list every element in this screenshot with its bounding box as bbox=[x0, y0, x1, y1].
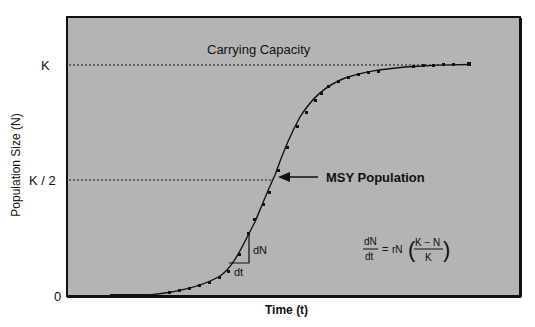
eq-lhs-den: dt bbox=[365, 251, 374, 262]
eq-frac-num: K − N bbox=[415, 237, 440, 248]
y-tick-half-K: K / 2 bbox=[29, 173, 56, 188]
eq-equals: = bbox=[382, 243, 388, 255]
y-tick-zero: 0 bbox=[54, 289, 61, 304]
dN-label: dN bbox=[253, 244, 267, 256]
eq-rN: rN bbox=[392, 244, 403, 255]
x-axis-title: Time (t) bbox=[265, 303, 308, 317]
y-axis-title: Population Size (N) bbox=[9, 113, 23, 216]
logistic-growth-chart: dN dt MSY Population Carrying Capacity K… bbox=[0, 0, 535, 327]
eq-frac-den: K bbox=[425, 252, 432, 263]
eq-lhs-num: dN bbox=[364, 236, 377, 247]
dt-label: dt bbox=[234, 266, 243, 278]
carrying-capacity-label: Carrying Capacity bbox=[207, 42, 311, 57]
msy-population-label: MSY Population bbox=[326, 170, 425, 185]
plot-area bbox=[67, 17, 520, 296]
y-tick-K: K bbox=[41, 58, 50, 73]
eq-close-paren: ) bbox=[443, 237, 450, 262]
